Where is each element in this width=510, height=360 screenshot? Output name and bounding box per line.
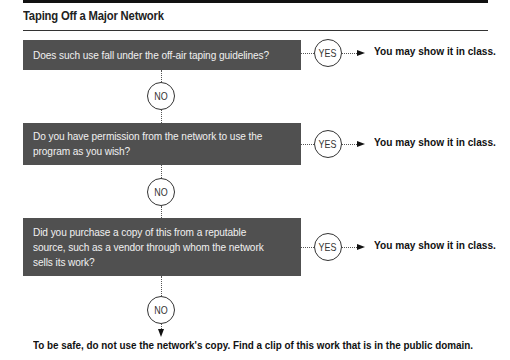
connector-yes-2 — [301, 144, 314, 145]
connector-outcome-2 — [342, 144, 357, 145]
no-node-1: NO — [147, 82, 175, 110]
yes-node-2: YES — [314, 130, 342, 158]
title-rule — [23, 30, 488, 31]
question-box-3: Did you purchase a copy of this from a r… — [23, 218, 301, 276]
arrow-right-icon — [357, 50, 365, 56]
yes-outcome-1: You may show it in class. — [374, 45, 496, 57]
question-text-2: Do you have permission from the network … — [33, 129, 270, 159]
connector-no-1b — [161, 110, 162, 123]
connector-yes-3 — [301, 247, 314, 248]
connector-no-3a — [161, 276, 162, 296]
connector-outcome-1 — [342, 53, 357, 54]
no-node-3: NO — [147, 296, 175, 324]
question-text-3: Did you purchase a copy of this from a r… — [33, 225, 270, 270]
connector-no-2b — [161, 206, 162, 218]
question-box-2: Do you have permission from the network … — [23, 123, 301, 165]
connector-yes-1 — [301, 53, 314, 54]
yes-outcome-3: You may show it in class. — [374, 239, 496, 251]
arrow-right-icon — [357, 244, 365, 250]
no-node-2: NO — [147, 178, 175, 206]
final-outcome: To be safe, do not use the network's cop… — [33, 339, 473, 351]
top-bar — [23, 0, 488, 3]
connector-no-2a — [161, 165, 162, 178]
question-text-1: Does such use fall under the off-air tap… — [33, 48, 270, 63]
arrow-right-icon — [357, 141, 365, 147]
yes-outcome-2: You may show it in class. — [374, 136, 496, 148]
connector-no-1a — [161, 70, 162, 82]
arrow-down-icon — [158, 329, 164, 337]
figure-title: Taping Off a Major Network — [23, 9, 164, 23]
yes-node-3: YES — [314, 233, 342, 261]
connector-outcome-3 — [342, 247, 357, 248]
yes-node-1: YES — [314, 39, 342, 67]
question-box-1: Does such use fall under the off-air tap… — [23, 40, 301, 70]
